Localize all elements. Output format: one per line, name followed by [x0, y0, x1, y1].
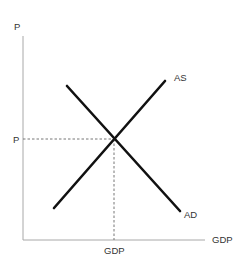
equilibrium-price-label: P: [13, 134, 19, 145]
ad-curve: [67, 86, 180, 211]
ad-curve-label: AD: [184, 209, 197, 220]
as-curve: [54, 81, 165, 208]
x-axis-label: GDP: [212, 234, 233, 245]
as-ad-chart: P GDP AS AD P GDP: [0, 0, 244, 265]
y-axis-label: P: [14, 21, 20, 32]
as-curve-label: AS: [174, 72, 187, 83]
equilibrium-output-label: GDP: [104, 245, 125, 256]
